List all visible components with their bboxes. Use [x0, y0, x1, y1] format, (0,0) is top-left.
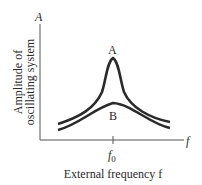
- resonance-diagram: A f A B f0 External frequency f Amplitud…: [0, 0, 202, 185]
- f0-label: f0: [108, 148, 116, 164]
- curve-b-label: B: [109, 109, 117, 123]
- y-axis-label-line2: oscillating system: [23, 38, 37, 125]
- x-axis-symbol: f: [186, 134, 191, 148]
- y-axis-symbol: A: [34, 10, 43, 24]
- y-axis-label: Amplitude of oscillating system: [11, 38, 37, 125]
- curve-a-label: A: [108, 43, 117, 57]
- x-axis-label: External frequency f: [64, 167, 163, 181]
